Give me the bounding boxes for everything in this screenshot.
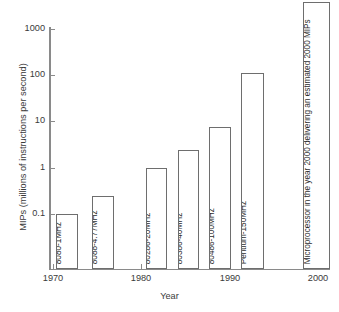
x-axis-tick-label: 2000 — [298, 273, 338, 283]
y-axis-title: MIPs (millions of instructions per secon… — [18, 32, 28, 262]
bar: Pentium-150MHz — [241, 73, 264, 269]
bar: 80286-20MHz — [146, 168, 167, 269]
bar-label: 80486-100MHz — [209, 208, 216, 264]
bar-label: 8088-4.77MHz — [92, 210, 99, 264]
bar: 8088-4.77MHz — [92, 196, 114, 269]
y-axis-tick — [50, 168, 55, 169]
x-axis-title: Year — [0, 291, 339, 301]
bar: 8080-1MHz — [56, 214, 78, 269]
bar: 80486-100MHz — [209, 127, 231, 269]
bar: 80386-40MHz — [178, 150, 199, 269]
y-axis-tick — [50, 75, 55, 76]
y-axis-tick — [50, 121, 55, 122]
bar-label: 8080-1MHz — [56, 222, 63, 264]
bar-label: Pentium-150MHz — [241, 201, 248, 264]
x-axis-tick-label: 1970 — [33, 273, 73, 283]
x-axis-tick — [141, 264, 142, 269]
y-axis-tick — [50, 29, 55, 30]
bar: Microprocessor in the year 2000 deliveri… — [303, 2, 330, 269]
x-axis-tick-label: 1980 — [121, 273, 161, 283]
y-axis-line — [49, 27, 51, 270]
x-axis-tick-label: 1990 — [210, 273, 250, 283]
bar-label: Microprocessor in the year 2000 deliveri… — [304, 19, 312, 264]
bar-label: 80386-40MHz — [178, 213, 184, 264]
chart-figure: 10001001010.1 1970198019902000 8080-1MHz… — [0, 0, 339, 312]
x-axis-tick — [53, 264, 54, 269]
y-axis-tick — [50, 214, 55, 215]
bar-label: 80286-20MHz — [146, 213, 152, 264]
